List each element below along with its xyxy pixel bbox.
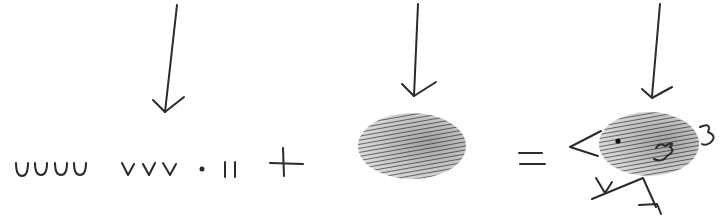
dot-mark-icon	[200, 167, 205, 172]
tail-icon	[700, 125, 714, 144]
u-marks-icon	[16, 163, 86, 176]
marks-group	[16, 162, 235, 177]
thumbprint-image	[358, 113, 466, 179]
arrow-to-marks-icon	[153, 5, 184, 112]
diagram-canvas	[0, 0, 721, 221]
feet-icon	[592, 178, 661, 214]
v-marks-icon	[122, 163, 176, 175]
thumbprint-bird-image	[570, 112, 714, 214]
plus-sign-icon	[270, 148, 303, 176]
arrow-to-thumbprint-icon	[402, 4, 436, 96]
arrow-to-bird-icon	[642, 4, 672, 98]
eye-icon	[615, 138, 620, 143]
line-marks-icon	[225, 162, 235, 177]
beak-icon	[570, 131, 601, 156]
equals-sign-icon	[519, 153, 545, 164]
